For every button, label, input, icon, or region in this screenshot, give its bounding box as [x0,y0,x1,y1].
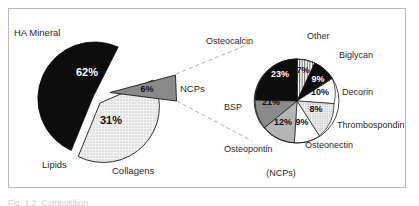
main-pct-ha-mineral: 62% [76,66,98,78]
figure-caption: Fig. 1.2. Composition [8,198,406,206]
ncp-pct-bsp: 21% [262,97,280,107]
ncp-pct-decorin: 10% [311,87,329,97]
main-pie-chart: 62% 31% 6% HA Mineral Lipids Collagens N… [14,27,205,176]
main-label-ha-mineral: HA Mineral [14,27,60,38]
ncp-label-osteonectin: Osteonectin [305,140,353,150]
ncp-pct-biglycan: 9% [311,74,324,84]
ncp-label-osteopontin: Osteopontin [224,144,273,154]
connector-line-top [176,42,254,74]
ncps-subcaption: (NCPs) [266,168,296,178]
ncp-pct-osteopontin: 12% [274,117,292,127]
ncp-label-biglycan: Biglycan [339,50,373,60]
pie-slice-osteocalcin-body[interactable] [255,59,297,101]
ncp-label-thrombospondin: Thrombospondin [337,120,405,130]
ncp-label-other: Other [307,31,330,41]
main-label-lipids: Lipids [42,159,67,170]
figure-root: 62% 31% 6% HA Mineral Lipids Collagens N… [0,0,419,206]
main-pct-ncps: 6% [140,84,153,94]
main-label-collagens: Collagens [112,165,154,176]
bone-composition-figure: 62% 31% 6% HA Mineral Lipids Collagens N… [0,0,419,206]
main-label-ncps: NCPs [180,83,205,94]
ncp-pct-thrombospondin: 8% [309,104,322,114]
ncp-label-decorin: Decorin [342,87,373,97]
ncp-label-bsp: BSP [224,102,242,112]
ncp-label-osteocalcin: Osteocalcin [206,36,253,46]
ncp-pct-osteocalcin: 23% [271,69,289,79]
ncps-pie-chart: 7% 9% 10% 8% 9% 12% 21% 23% Osteocalcin … [206,31,405,178]
ncp-pct-other: 7% [296,65,309,75]
ncp-pct-osteonectin: 9% [295,117,308,127]
main-pct-collagens: 31% [100,114,122,126]
